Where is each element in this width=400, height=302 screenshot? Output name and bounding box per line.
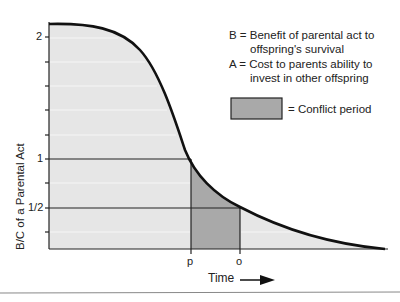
y-tick-label-1: 1 [37,152,43,164]
bottom-separator [0,292,400,293]
x-marker-o: o [236,255,242,267]
legend-label-conflict: = Conflict period [288,102,371,116]
y-axis-label: B/C of a Parental Act [14,143,26,250]
legend-swatch-conflict [231,98,282,119]
legend-line-a: A = Cost to parents ability to [229,57,373,71]
legend-line-a-cont: invest in other offspring [250,71,369,85]
legend-line-b: B = Benefit of parental act to [229,28,374,42]
time-arrow-icon [240,275,275,285]
y-tick-label-2: 2 [36,30,42,42]
x-axis-label: Time [208,271,234,285]
x-marker-p: p [187,255,193,267]
legend-line-b-cont: offspring's survival [250,42,344,56]
y-tick-label-half: 1/2 [28,201,43,213]
